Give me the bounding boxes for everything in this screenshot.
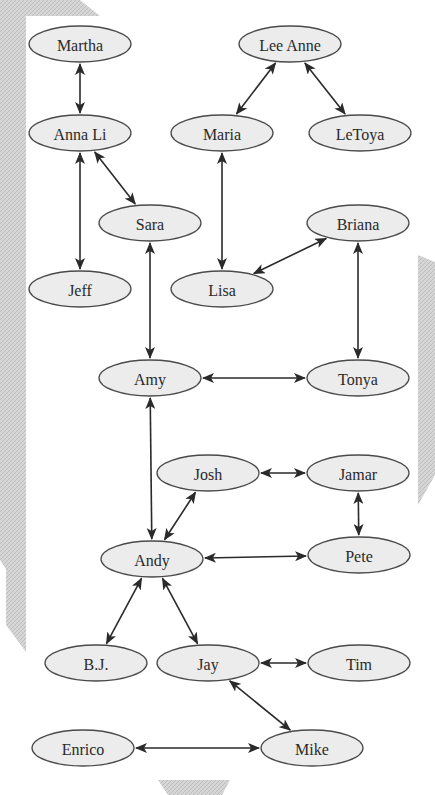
node-label: Andy [134,552,170,570]
edge-jamar-pete [358,493,359,535]
node-label: Tim [346,656,373,673]
edge-lee-anne-maria [236,63,275,114]
edge-anna-li-sara [95,152,136,204]
node-label: Pete [345,548,373,565]
node-label: Josh [194,466,222,483]
node-jamar: Jamar [307,455,409,491]
node-label: Sara [136,216,164,233]
nodes-layer: MarthaLee AnneAnna LiMariaLeToyaSaraBria… [29,26,411,766]
node-label: Jamar [339,466,378,483]
node-andy: Andy [101,541,203,577]
edge-jay-mike [230,681,290,730]
node-mike: Mike [261,730,363,766]
node-josh: Josh [157,455,259,491]
right-hatch-band [418,255,435,505]
node-enrico: Enrico [32,730,134,766]
network-diagram: MarthaLee AnneAnna LiMariaLeToyaSaraBria… [0,0,435,795]
node-amy: Amy [99,360,201,396]
node-jeff: Jeff [29,271,131,307]
node-jay: Jay [157,645,259,681]
node-sara: Sara [99,205,201,241]
node-label: Mike [295,741,329,758]
edge-lee-anne-letoya [305,63,345,114]
left-hatch-band-lower [6,550,26,652]
bottom-hatch-tab [158,780,230,795]
node-label: Lee Anne [259,37,321,54]
edge-andy-pete [205,556,306,558]
node-bj: B.J. [45,645,147,681]
node-label: LeToya [336,126,385,144]
node-label: Jay [197,656,218,674]
node-tonya: Tonya [307,360,409,396]
node-label: Lisa [208,282,236,299]
edge-lisa-briana [254,238,326,273]
node-pete: Pete [308,537,410,573]
node-label: Jeff [68,282,92,299]
node-label: Maria [203,126,241,143]
node-tim: Tim [308,645,410,681]
node-label: Martha [57,37,103,54]
node-lisa: Lisa [171,271,273,307]
edge-amy-andy [150,398,152,539]
node-label: Enrico [62,741,105,758]
node-letoya: LeToya [309,115,411,151]
node-martha: Martha [29,26,131,62]
node-maria: Maria [171,115,273,151]
node-briana: Briana [307,205,409,241]
edge-andy-bj [106,578,141,643]
node-label: Briana [337,216,380,233]
node-label: B.J. [84,656,109,673]
edge-andy-jay [162,578,197,643]
node-label: Anna Li [54,126,107,143]
node-anna-li: Anna Li [29,115,131,151]
edge-josh-andy [165,492,196,540]
node-lee-anne: Lee Anne [239,26,341,62]
node-label: Tonya [338,371,378,389]
node-label: Amy [134,371,166,389]
